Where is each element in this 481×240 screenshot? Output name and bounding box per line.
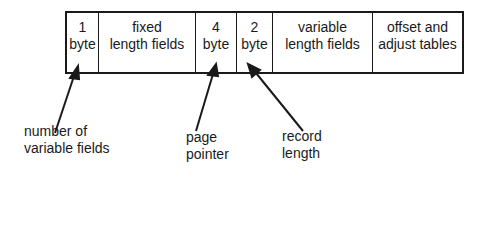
annotation-text: variable fields [24, 140, 110, 157]
arrowhead-icon [70, 66, 79, 79]
arrow-record-length [256, 73, 303, 131]
annotation-text: pointer [186, 146, 229, 163]
annotation-text: length [282, 145, 322, 162]
annotation-text: number of [24, 123, 110, 140]
annotation-text: page [186, 129, 229, 146]
annotation-record-length: record length [282, 128, 322, 162]
arrow-page-pointer [196, 74, 213, 131]
annotation-number-of-variable-fields: number of variable fields [24, 123, 110, 157]
annotation-text: record [282, 128, 322, 145]
annotation-page-pointer: page pointer [186, 129, 229, 163]
arrowhead-icon [208, 64, 218, 76]
